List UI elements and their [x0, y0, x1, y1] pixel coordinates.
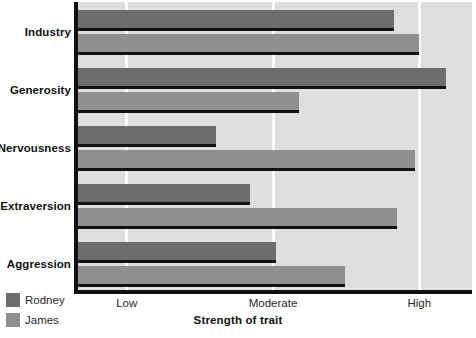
- y-axis-label-generosity: Generosity: [10, 84, 71, 96]
- bar-aggression-rodney[interactable]: [77, 242, 276, 263]
- y-axis-line: [74, 2, 78, 294]
- bar-extraversion-james[interactable]: [77, 208, 397, 229]
- legend-swatch-icon-rodney: [6, 293, 20, 307]
- y-axis-label-extraversion: Extraversion: [0, 200, 71, 212]
- bar-chart: IndustryGenerosityNervousnessExtraversio…: [0, 0, 476, 338]
- y-axis-label-industry: Industry: [25, 26, 71, 38]
- legend-label-james: James: [25, 314, 59, 326]
- x-tick-label-moderate: Moderate: [249, 297, 298, 309]
- legend-swatch-icon-james: [6, 313, 20, 327]
- y-axis-label-nervousness: Nervousness: [0, 142, 71, 154]
- plot-area: [77, 2, 472, 292]
- bar-nervousness-rodney[interactable]: [77, 126, 216, 147]
- x-tick-label-high: High: [408, 297, 432, 309]
- legend: Rodney James: [6, 292, 65, 328]
- bar-aggression-james[interactable]: [77, 266, 345, 287]
- bar-industry-james[interactable]: [77, 34, 419, 55]
- bar-generosity-james[interactable]: [77, 92, 299, 113]
- bar-generosity-rodney[interactable]: [77, 68, 446, 89]
- y-axis-label-aggression: Aggression: [7, 258, 71, 270]
- bar-nervousness-james[interactable]: [77, 150, 415, 171]
- legend-item-james[interactable]: James: [6, 312, 65, 328]
- x-axis-title: Strength of trait: [0, 314, 476, 326]
- bar-extraversion-rodney[interactable]: [77, 184, 250, 205]
- legend-label-rodney: Rodney: [25, 294, 65, 306]
- legend-item-rodney[interactable]: Rodney: [6, 292, 65, 308]
- x-tick-label-low: Low: [116, 297, 137, 309]
- bar-industry-rodney[interactable]: [77, 10, 394, 31]
- x-axis-line: [74, 290, 472, 294]
